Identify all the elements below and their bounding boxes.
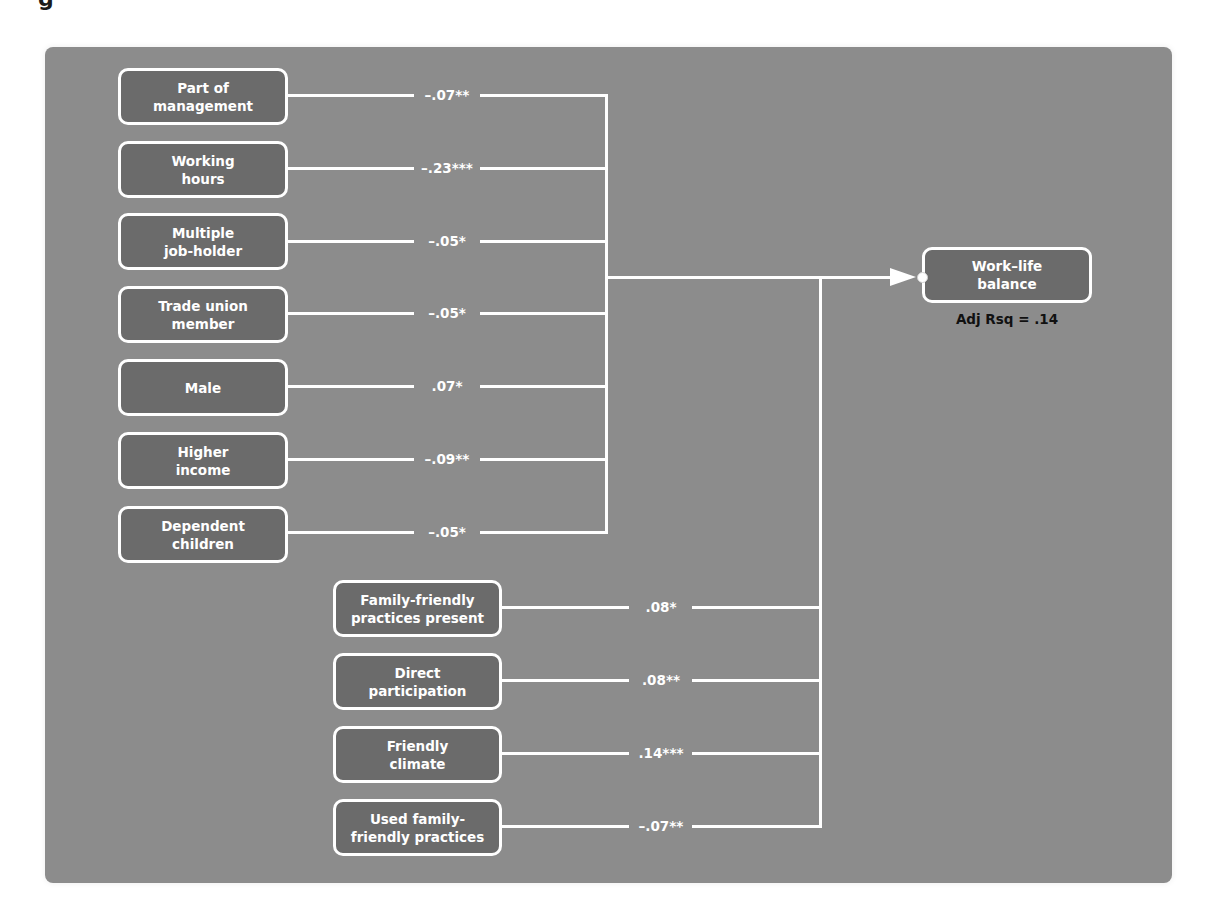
main-path-line	[605, 276, 897, 279]
connector-line	[502, 679, 629, 682]
bracket-line-workplace	[819, 276, 822, 828]
predictor-trade-union-member: Trade union member	[118, 286, 288, 343]
connector-line	[480, 167, 608, 170]
connector-line	[480, 385, 608, 388]
connector-line	[480, 312, 608, 315]
connector-line	[288, 385, 414, 388]
connector-line	[502, 606, 629, 609]
connector-line	[692, 679, 822, 682]
predictor-multiple-job-holder: Multiple job-holder	[118, 213, 288, 270]
predictor-working-hours: Working hours	[118, 141, 288, 198]
coefficient-label: .07*	[412, 378, 482, 394]
arrowhead-icon	[890, 268, 916, 286]
connector-line	[288, 458, 414, 461]
connector-line	[502, 752, 629, 755]
coefficient-label: –.23***	[412, 160, 482, 176]
predictor-family-friendly-practices-present: Family-friendly practices present	[333, 580, 502, 637]
connector-line	[480, 94, 608, 97]
bracket-line-individual	[605, 94, 608, 534]
coefficient-label: –.05*	[412, 305, 482, 321]
connector-line	[692, 825, 822, 828]
connector-line	[288, 167, 414, 170]
predictor-direct-participation: Direct participation	[333, 653, 502, 710]
connector-line	[480, 531, 608, 534]
connector-line	[288, 531, 414, 534]
adj-rsq-caption: Adj Rsq = .14	[922, 311, 1092, 327]
connector-line	[288, 312, 414, 315]
coefficient-label: .14***	[626, 745, 696, 761]
connector-line	[288, 240, 414, 243]
connector-line	[480, 240, 608, 243]
coefficient-label: –.09**	[412, 451, 482, 467]
coefficient-label: –.07**	[412, 87, 482, 103]
connector-line	[692, 752, 822, 755]
outcome-work-life-balance: Work–life balance	[922, 247, 1092, 303]
coefficient-label: .08**	[626, 672, 696, 688]
predictor-used-family-friendly-practices: Used family- friendly practices	[333, 799, 502, 856]
coefficient-label: –.05*	[412, 524, 482, 540]
predictor-part-of-management: Part of management	[118, 68, 288, 125]
coefficient-label: –.05*	[412, 233, 482, 249]
predictor-higher-income: Higher income	[118, 432, 288, 489]
coefficient-label: –.07**	[626, 818, 696, 834]
connector-line	[288, 94, 414, 97]
figure-heading-fragment: g	[38, 0, 54, 11]
connector-line	[480, 458, 608, 461]
predictor-dependent-children: Dependent children	[118, 506, 288, 563]
connector-line	[692, 606, 822, 609]
coefficient-label: .08*	[626, 599, 696, 615]
predictor-friendly-climate: Friendly climate	[333, 726, 502, 783]
connector-line	[502, 825, 629, 828]
connector-dot-icon	[917, 272, 928, 283]
predictor-male: Male	[118, 359, 288, 416]
